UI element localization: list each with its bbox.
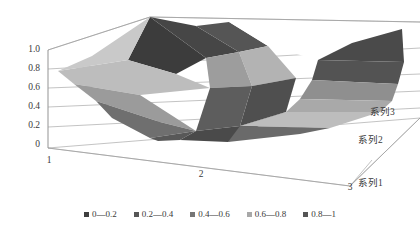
legend-item-2[interactable]: 0.4—0.6 <box>190 209 230 219</box>
category-axis-tick-1: 2 <box>199 169 204 179</box>
legend-item-3[interactable]: 0.6—0.8 <box>247 209 287 219</box>
value-axis-tick-3: 0.4 <box>28 101 40 111</box>
legend-swatch-icon <box>247 212 252 217</box>
legend-swatch-icon <box>134 212 139 217</box>
legend-label: 0.4—0.6 <box>198 209 230 219</box>
legend-item-1[interactable]: 0.2—0.4 <box>134 209 174 219</box>
surface-chart: 1.00.80.60.40.20123系列3系列2系列1 0—0.20.2—0.… <box>0 0 420 225</box>
value-axis-tick-5: 0 <box>35 139 40 149</box>
chart-legend: 0—0.20.2—0.40.4—0.60.6—0.80.8—1 <box>0 209 420 219</box>
legend-item-0[interactable]: 0—0.2 <box>84 209 117 219</box>
legend-label: 0.2—0.4 <box>142 209 174 219</box>
legend-label: 0.8—1 <box>311 209 336 219</box>
series-axis-tick-1: 系列2 <box>358 134 383 145</box>
category-axis-tick-0: 1 <box>47 155 52 165</box>
value-axis-tick-4: 0.2 <box>28 120 40 130</box>
value-axis-tick-1: 0.8 <box>28 63 40 73</box>
facet-right-dark-low <box>312 60 404 84</box>
legend-label: 0—0.2 <box>92 209 117 219</box>
chart-plot-area: 1.00.80.60.40.20123系列3系列2系列1 <box>0 0 420 225</box>
series-axis-tick-2: 系列1 <box>358 177 383 188</box>
legend-item-4[interactable]: 0.8—1 <box>303 209 336 219</box>
category-axis-tick-2: 3 <box>348 182 353 192</box>
value-axis-tick-0: 1.0 <box>28 44 40 54</box>
legend-swatch-icon <box>190 212 195 217</box>
legend-swatch-icon <box>84 212 89 217</box>
series-axis-tick-0: 系列3 <box>370 106 395 117</box>
value-axis-tick-2: 0.6 <box>28 82 40 92</box>
legend-swatch-icon <box>303 212 308 217</box>
legend-label: 0.6—0.8 <box>255 209 287 219</box>
facet-lower-right-dark <box>228 126 330 142</box>
